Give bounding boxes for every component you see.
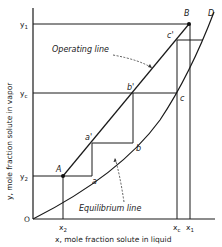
label-c-prime: c' bbox=[167, 31, 174, 40]
equilibrium-line-leader bbox=[115, 158, 124, 202]
label-b-prime: b' bbox=[127, 83, 134, 92]
equilibrium-line bbox=[33, 12, 214, 219]
y2-label: y2 bbox=[20, 172, 28, 182]
equilibrium-line-label: Equilibrium line bbox=[79, 204, 141, 213]
label-A: A bbox=[55, 165, 61, 174]
label-B: B bbox=[184, 9, 190, 18]
yc-label: yc bbox=[20, 89, 27, 99]
arrow-head-icon bbox=[114, 158, 117, 162]
label-b: b bbox=[136, 144, 141, 153]
y1-label: y1 bbox=[20, 20, 28, 30]
arrow-head-icon bbox=[148, 64, 152, 68]
x-axis-title: x, mole fraction solute in liquid bbox=[55, 235, 172, 244]
stage-step-1 bbox=[90, 93, 133, 176]
point-B-marker bbox=[187, 22, 191, 26]
xc-label: xc bbox=[173, 223, 180, 233]
x1-label: x1 bbox=[186, 223, 194, 233]
mccabe-thiele-diagram: Operating line Equilibrium line A B D a … bbox=[0, 0, 222, 247]
label-D: D bbox=[208, 9, 214, 18]
operating-line-label: Operating line bbox=[52, 45, 109, 54]
operating-line-leader bbox=[113, 55, 152, 68]
label-a: a bbox=[92, 177, 97, 186]
label-a-prime: a' bbox=[85, 133, 92, 142]
origin-label: O bbox=[24, 215, 30, 224]
y-axis-title: y, mole fraction solute in vapor bbox=[5, 82, 14, 200]
point-A-marker bbox=[61, 174, 65, 178]
label-c: c bbox=[180, 94, 185, 103]
x2-label: x2 bbox=[59, 223, 67, 233]
